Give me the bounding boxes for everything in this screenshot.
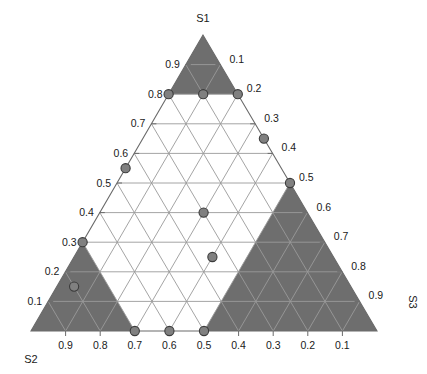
tick-label-bottom: 0.1 [335, 339, 350, 351]
ternary-diagram-canvas: 0.90.80.70.60.50.40.30.20.10.10.20.30.40… [0, 0, 427, 374]
data-point [259, 134, 268, 143]
tick-label-right: 0.4 [282, 141, 297, 153]
data-point [130, 326, 139, 335]
tick-label-bottom: 0.3 [266, 339, 281, 351]
tick-label-left: 0.7 [131, 117, 146, 129]
data-point [78, 238, 87, 247]
tick-label-right: 0.5 [299, 171, 314, 183]
tick-label-left: 0.3 [62, 236, 77, 248]
tick-label-bottom: 0.8 [93, 339, 108, 351]
tick-label-left: 0.4 [79, 206, 94, 218]
data-point [199, 326, 208, 335]
tick-label-right: 0.3 [264, 112, 279, 124]
ternary-plot: 0.90.80.70.60.50.40.30.20.10.10.20.30.40… [0, 0, 427, 374]
tick-label-left: 0.6 [114, 147, 129, 159]
data-point [199, 208, 208, 217]
vertex-label-s1: S1 [196, 12, 209, 24]
tick-label-bottom: 0.2 [300, 339, 315, 351]
tick-label-right: 0.1 [229, 53, 244, 65]
tick-label-bottom: 0.7 [127, 339, 142, 351]
data-point [233, 90, 242, 99]
data-point [285, 178, 294, 187]
tick-label-right: 0.8 [351, 260, 366, 272]
tick-label-left: 0.8 [148, 88, 163, 100]
tick-label-bottom: 0.4 [231, 339, 246, 351]
data-point [121, 164, 130, 173]
tick-label-left: 0.5 [96, 177, 111, 189]
data-point [164, 90, 173, 99]
data-point [165, 326, 174, 335]
data-point [199, 90, 208, 99]
tick-label-left: 0.2 [45, 265, 60, 277]
vertex-label-s2: S2 [24, 353, 37, 365]
tick-label-left: 0.9 [165, 58, 180, 70]
tick-label-bottom: 0.6 [162, 339, 177, 351]
tick-label-bottom: 0.9 [58, 339, 73, 351]
tick-label-right: 0.6 [316, 201, 331, 213]
tick-label-left: 0.1 [28, 295, 43, 307]
tick-label-right: 0.7 [334, 230, 349, 242]
data-point [70, 282, 79, 291]
vertex-label-s3: S3 [407, 295, 419, 308]
tick-label-bottom: 0.5 [197, 339, 212, 351]
tick-label-right: 0.2 [247, 82, 262, 94]
data-point [208, 252, 217, 261]
tick-label-right: 0.9 [369, 289, 384, 301]
